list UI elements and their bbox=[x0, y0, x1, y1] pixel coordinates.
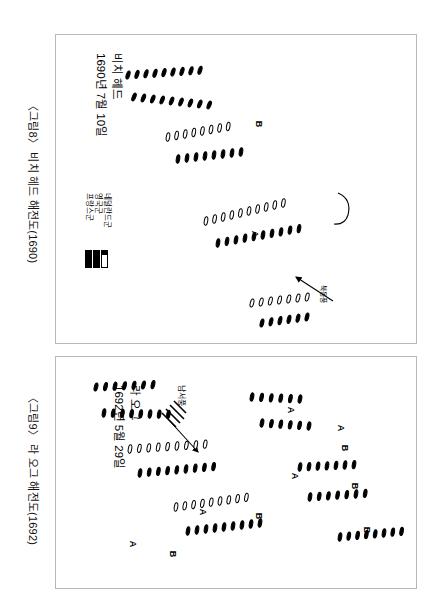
fleet-marker-b-3: B bbox=[254, 513, 264, 520]
figure-9-panel: 라 오그 1692년 5월 29일 남서풍 A A A A A B B B B … bbox=[55, 356, 417, 589]
fleet-marker-a-3: A bbox=[290, 473, 300, 480]
fleet-marker-b-5: B bbox=[168, 551, 178, 558]
fleet-marker-a-4: A bbox=[198, 509, 208, 516]
fleet-marker-a-2: A bbox=[336, 425, 346, 432]
fleet-marker-a-5: A bbox=[128, 541, 138, 548]
fleet-marker-b-2: B bbox=[350, 483, 360, 490]
figure-8-ship-formations bbox=[56, 35, 416, 343]
fleet-marker-a-1: A bbox=[286, 407, 296, 414]
figure-9-ship-formations bbox=[56, 357, 416, 588]
fleet-marker-b-1: B bbox=[340, 445, 350, 452]
figure-8-caption: 〈그림8〉 비치 헤드 해전도(1690) bbox=[26, 100, 42, 263]
figure-9-caption: 〈그림9〉 라 오그 해전도(1692) bbox=[26, 392, 42, 545]
figure-8-panel: 비치 헤드 1690년 7월 10일 네덜란드군 영국군 프랑스군 B A 북동… bbox=[55, 34, 417, 344]
fleet-marker-b-4: B bbox=[362, 527, 372, 534]
